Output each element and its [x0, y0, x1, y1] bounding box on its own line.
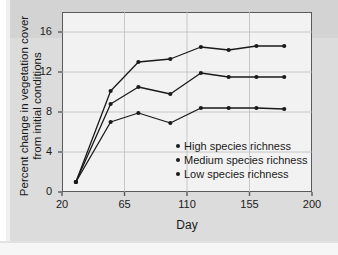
y-axis-title-line-1: Percent change in vegetation cover: [18, 13, 31, 199]
data-point-s0-3: [168, 57, 172, 61]
data-point-s1-4: [199, 71, 203, 75]
data-point-s0-6: [254, 44, 258, 48]
y-axis-title-line-2: from initial conditions: [31, 13, 44, 199]
legend-marker-icon: [176, 158, 180, 162]
y-axis-title: Percent change in vegetation cover from …: [18, 13, 44, 199]
x-tick-label-65: 65: [108, 198, 142, 210]
data-point-s2-1: [109, 120, 113, 124]
x-tick-label-20: 20: [45, 198, 79, 210]
data-point-s0-4: [199, 45, 203, 49]
data-point-s2-0: [74, 180, 78, 184]
data-point-s2-5: [227, 106, 231, 110]
data-point-s2-6: [254, 106, 258, 110]
data-point-s2-4: [199, 106, 203, 110]
legend-item-label: High species richness: [184, 140, 291, 152]
x-axis-title: Day: [62, 218, 312, 232]
legend: High species richnessMedium species rich…: [176, 139, 308, 181]
chart-figure: 0481216 2065110155200 Day Percent change…: [0, 0, 338, 255]
x-tick-label-155: 155: [233, 198, 267, 210]
plot-graphics: [0, 0, 338, 255]
legend-item-1: Medium species richness: [176, 153, 308, 167]
data-point-s1-3: [168, 92, 172, 96]
legend-marker-icon: [176, 172, 180, 176]
x-tick-label-110: 110: [170, 198, 204, 210]
legend-item-label: Low species richness: [184, 168, 289, 180]
data-point-s2-3: [168, 121, 172, 125]
data-point-s2-2: [136, 111, 140, 115]
data-point-s0-2: [136, 60, 140, 64]
legend-marker-icon: [176, 144, 180, 148]
legend-item-label: Medium species richness: [184, 154, 308, 166]
data-point-s1-5: [227, 75, 231, 79]
data-point-s1-6: [254, 75, 258, 79]
data-point-s0-7: [282, 44, 286, 48]
data-point-s1-2: [136, 85, 140, 89]
data-point-s1-1: [109, 102, 113, 106]
data-point-s2-7: [282, 107, 286, 111]
data-point-s0-1: [109, 89, 113, 93]
data-point-s0-5: [227, 48, 231, 52]
legend-item-2: Low species richness: [176, 167, 308, 181]
x-tick-label-200: 200: [295, 198, 329, 210]
data-point-s1-7: [282, 75, 286, 79]
legend-item-0: High species richness: [176, 139, 308, 153]
